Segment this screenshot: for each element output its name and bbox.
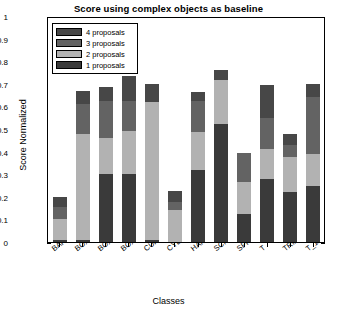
y-tick-label: 0.5 — [0, 126, 8, 135]
y-tick-label: 0.6 — [0, 103, 8, 112]
y-tick-label: 0.2 — [0, 193, 8, 202]
bar-segment — [191, 92, 205, 101]
bar-segment — [99, 87, 113, 101]
bar-segment — [306, 97, 320, 154]
bar-cup[interactable] — [145, 18, 159, 242]
y-tick-mark — [321, 243, 325, 244]
bar-segment — [168, 210, 182, 242]
y-axis-label: Score Normalized — [18, 60, 28, 210]
bar-segment — [76, 104, 90, 133]
bar-segment — [306, 154, 320, 186]
legend-item[interactable]: 2 proposals — [56, 49, 134, 59]
bar-segment — [122, 101, 136, 132]
bar-segment — [76, 91, 90, 105]
bar-segment — [214, 124, 228, 242]
chart-title: Score using complex objects as baseline — [0, 3, 337, 14]
bar-segment — [237, 182, 251, 214]
bar-segment — [168, 191, 182, 202]
bar-segment — [99, 174, 113, 242]
bar-segment — [283, 192, 297, 242]
bar-segment — [306, 186, 320, 243]
bar-scissor[interactable] — [214, 18, 228, 242]
bar-segment — [53, 207, 67, 219]
legend-item[interactable]: 4 proposals — [56, 27, 134, 37]
bar-segment — [283, 145, 297, 157]
bar-segment — [99, 101, 113, 138]
bar-segment — [191, 101, 205, 133]
y-tick-label: 1 — [0, 13, 8, 22]
y-tick-label: 0 — [0, 239, 8, 248]
bar-sphere[interactable] — [237, 18, 251, 242]
y-tick-label: 0.8 — [0, 58, 8, 67]
x-tick-mark — [267, 243, 268, 247]
bar-segment — [122, 76, 136, 101]
bar-segment — [260, 118, 274, 150]
x-axis-label: Classes — [0, 296, 337, 306]
y-tick-mark — [47, 243, 51, 244]
bar-segment — [99, 138, 113, 174]
bar-segment — [260, 85, 274, 118]
y-tick-label: 0.4 — [0, 148, 8, 157]
bar-segment — [306, 84, 320, 98]
legend-swatch-icon — [56, 39, 82, 47]
y-tick-label: 0.7 — [0, 80, 8, 89]
bar-segment — [145, 84, 159, 102]
bar-segment — [191, 170, 205, 242]
bar-segment — [260, 149, 274, 178]
legend-label: 2 proposals — [86, 50, 125, 59]
bar-segment — [191, 132, 205, 169]
bar-segment — [76, 240, 90, 242]
figure: Score using complex objects as baseline … — [0, 0, 337, 315]
y-tick-label: 0.1 — [0, 216, 8, 225]
legend-item[interactable]: 3 proposals — [56, 38, 134, 48]
bar-triangle[interactable] — [283, 18, 297, 242]
bar-segment — [283, 134, 297, 145]
bar-segment — [237, 214, 251, 242]
legend-swatch-icon — [56, 28, 82, 36]
bar-segment — [283, 157, 297, 192]
legend-swatch-icon — [56, 61, 82, 69]
bar-segment — [76, 134, 90, 240]
bar-segment — [260, 179, 274, 242]
legend: 4 proposals3 proposals2 proposals1 propo… — [52, 23, 138, 74]
bar-segment — [53, 219, 67, 239]
bar-cylinder[interactable] — [168, 18, 182, 242]
bar-t[interactable] — [260, 18, 274, 242]
bar-segment — [145, 240, 159, 242]
legend-label: 1 proposals — [86, 61, 125, 70]
bar-segment — [214, 80, 228, 124]
legend-label: 4 proposals — [86, 28, 125, 37]
bar-t_1[interactable] — [306, 18, 320, 242]
bar-segment — [168, 202, 182, 210]
bar-segment — [237, 153, 251, 182]
legend-item[interactable]: 1 proposals — [56, 60, 134, 70]
bar-segment — [122, 131, 136, 174]
legend-swatch-icon — [56, 50, 82, 58]
legend-label: 3 proposals — [86, 39, 125, 48]
bar-segment — [145, 102, 159, 240]
bar-segment — [53, 240, 67, 242]
bar-segment — [53, 197, 67, 207]
x-tick-label-t: T — [258, 243, 267, 253]
bar-hammer[interactable] — [191, 18, 205, 242]
y-tick-label: 0.3 — [0, 171, 8, 180]
bar-segment — [122, 174, 136, 242]
y-tick-label: 0.9 — [0, 35, 8, 44]
bar-segment — [214, 70, 228, 80]
